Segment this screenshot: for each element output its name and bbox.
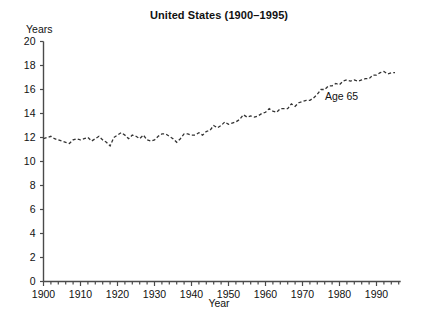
- y-tick-label: 0: [14, 275, 36, 287]
- x-tick-label: 1960: [246, 288, 286, 300]
- x-tick-label: 1990: [357, 288, 397, 300]
- series-annotation-age-65: Age 65: [325, 90, 358, 102]
- x-tick-label: 1920: [98, 288, 138, 300]
- x-tick-label: 1930: [135, 288, 175, 300]
- axes: [44, 42, 401, 282]
- y-tick-label: 20: [14, 35, 36, 47]
- y-tick-label: 2: [14, 251, 36, 263]
- x-tick-label: 1980: [320, 288, 360, 300]
- x-tick-label: 1910: [61, 288, 101, 300]
- y-tick-label: 4: [14, 227, 36, 239]
- x-tick-label: 1950: [209, 288, 249, 300]
- data-series: [44, 72, 396, 146]
- y-tick-label: 12: [14, 131, 36, 143]
- plot-area: [0, 0, 438, 326]
- y-tick-label: 8: [14, 179, 36, 191]
- x-tick-label: 1940: [172, 288, 212, 300]
- x-tick-label: 1970: [283, 288, 323, 300]
- chart-figure: United States (1900–1995) Years Year 024…: [0, 0, 438, 326]
- y-tick-label: 6: [14, 203, 36, 215]
- axis-ticks: [40, 42, 399, 287]
- x-tick-label: 1900: [24, 288, 64, 300]
- y-tick-label: 10: [14, 155, 36, 167]
- y-tick-label: 14: [14, 107, 36, 119]
- y-tick-label: 18: [14, 59, 36, 71]
- y-tick-label: 16: [14, 83, 36, 95]
- series-line-age-65: [44, 72, 396, 146]
